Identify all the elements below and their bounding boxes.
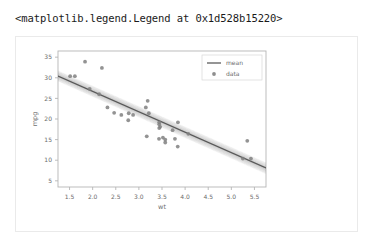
data-point	[73, 74, 77, 78]
scatter-plot-svg: 1.52.02.53.03.54.04.55.05.55101520253035…	[16, 37, 359, 233]
x-tick-label: 3.5	[157, 193, 167, 200]
data-point	[186, 132, 190, 136]
data-point	[100, 66, 104, 70]
y-tick-label: 10	[44, 156, 52, 163]
y-tick-label: 25	[44, 95, 52, 102]
data-point	[171, 128, 175, 132]
y-axis-label: mpg	[31, 112, 39, 127]
data-point	[173, 137, 177, 141]
x-tick-label: 5.0	[227, 193, 237, 200]
data-point	[157, 126, 161, 130]
data-point	[126, 118, 130, 122]
y-tick-label: 15	[44, 136, 52, 143]
data-point	[144, 106, 148, 110]
data-point	[176, 120, 180, 124]
data-point	[83, 60, 87, 64]
x-tick-label: 5.5	[250, 193, 260, 200]
data-point	[163, 138, 167, 142]
data-point	[127, 111, 131, 115]
legend-label: mean	[226, 59, 243, 66]
x-tick-label: 4.0	[180, 193, 190, 200]
data-point	[106, 106, 110, 110]
data-point	[249, 157, 253, 161]
legend-repr-text: <matplotlib.legend.Legend at 0x1d528b152…	[15, 11, 283, 25]
data-point	[112, 111, 116, 115]
notebook-output-cell: <matplotlib.legend.Legend at 0x1d528b152…	[0, 0, 374, 243]
y-tick-label: 30	[44, 74, 52, 81]
data-point	[241, 157, 245, 161]
x-tick-label: 4.5	[203, 193, 213, 200]
x-axis-label: wt	[158, 203, 166, 211]
data-point	[157, 120, 161, 124]
data-point	[147, 111, 151, 115]
matplotlib-figure: 1.52.02.53.03.54.04.55.05.55101520253035…	[16, 37, 359, 233]
legend-marker-swatch	[212, 72, 216, 76]
data-point	[88, 87, 92, 91]
data-point	[68, 74, 72, 78]
data-point	[119, 113, 123, 117]
y-tick-label: 35	[44, 53, 52, 60]
data-point	[245, 139, 249, 143]
legend-label: data	[226, 70, 240, 77]
x-tick-label: 2.5	[111, 193, 121, 200]
chart-legend: meandata	[202, 55, 262, 80]
y-tick-label: 20	[44, 115, 52, 122]
data-point	[131, 113, 135, 117]
data-point	[176, 145, 180, 149]
data-point	[157, 137, 161, 141]
x-tick-label: 2.0	[88, 193, 98, 200]
figure-card: 1.52.02.53.03.54.04.55.05.55101520253035…	[15, 36, 358, 232]
x-tick-label: 3.0	[134, 193, 144, 200]
data-point	[97, 92, 101, 96]
y-tick-label: 5	[48, 177, 52, 184]
x-tick-label: 1.5	[65, 193, 75, 200]
data-point	[145, 134, 149, 138]
data-point	[146, 99, 150, 103]
